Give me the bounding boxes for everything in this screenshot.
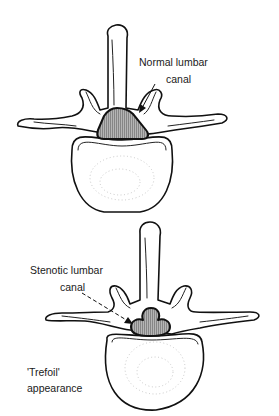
normal-vertebra — [18, 25, 227, 212]
trefoil-note-line1: 'Trefoil' — [27, 366, 60, 378]
vertebral-body-stenotic — [106, 334, 204, 410]
normal-canal-label-line2: canal — [166, 73, 191, 85]
vertebral-body-normal — [72, 137, 173, 212]
normal-canal-label-line1: Normal lumbar — [139, 56, 208, 68]
stenotic-canal-label-line1: Stenotic lumbar — [30, 264, 103, 276]
stenotic-canal-label-line2: canal — [60, 281, 85, 293]
trefoil-note-line2: appearance — [27, 382, 82, 394]
